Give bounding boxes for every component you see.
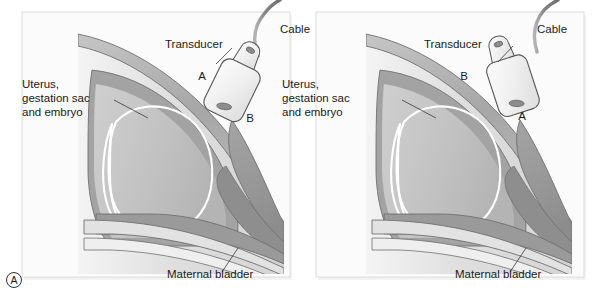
- right-uterus-label-line1: Uterus,: [282, 78, 319, 90]
- left-cable-label: Cable: [280, 23, 310, 35]
- right-bladder-label: Maternal bladder: [455, 268, 541, 280]
- right-uterus-label-line3: and embryo: [282, 106, 343, 118]
- left-marker-a: A: [198, 70, 206, 82]
- left-panel: Cable Transducer Uterus, gestation sac a…: [22, 0, 310, 292]
- right-transducer-label: Transducer: [424, 38, 482, 50]
- left-uterus-label-line1: Uterus,: [22, 78, 59, 90]
- right-marker-a: A: [518, 110, 526, 122]
- left-uterus-label-line2: gestation sac: [22, 92, 90, 104]
- right-transducer-footprint: [509, 100, 524, 107]
- left-panel-anatomy: [78, 22, 290, 292]
- left-uterus-label-line3: and embryo: [22, 106, 83, 118]
- right-uterus-label-line2: gestation sac: [282, 92, 350, 104]
- figure-root: Cable Transducer Uterus, gestation sac a…: [0, 0, 608, 300]
- right-marker-b: B: [460, 70, 468, 82]
- right-cable-label: Cable: [537, 23, 567, 35]
- ultrasound-orientation-figure: Cable Transducer Uterus, gestation sac a…: [0, 0, 608, 300]
- right-panel: Cable Transducer Uterus, gestation sac a…: [282, 0, 586, 292]
- left-marker-b: B: [246, 112, 254, 124]
- left-bladder-label: Maternal bladder: [167, 268, 253, 280]
- left-transducer-label: Transducer: [165, 38, 223, 50]
- panel-letter-label: A: [10, 274, 17, 286]
- right-panel-anatomy: [366, 22, 578, 292]
